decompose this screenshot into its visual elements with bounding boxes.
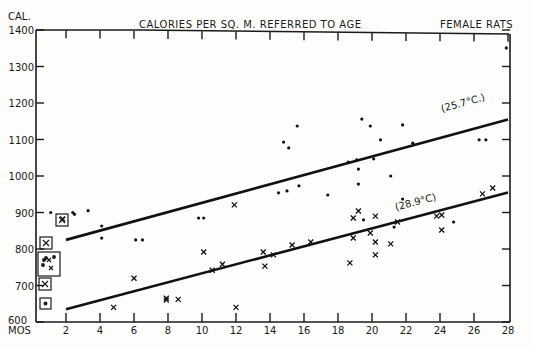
chart-title: CALORIES PER SQ. M. REFERRED TO AGE <box>139 19 362 30</box>
cross-marker <box>220 262 225 267</box>
trend-line-label: (28.9°C) <box>394 191 438 212</box>
dot-marker <box>478 138 481 141</box>
dot-marker <box>355 158 358 161</box>
cross-marker <box>368 230 373 235</box>
x-tick-label: 16 <box>298 325 311 336</box>
dot-marker <box>100 224 103 227</box>
boxed-markers <box>38 214 68 309</box>
chart-subtitle: FEMALE RATS <box>440 19 513 30</box>
axis-ticks <box>36 30 510 322</box>
cross-marker <box>132 276 137 281</box>
axis-tick-labels: 2468101214161820222426286007008009001000… <box>8 25 514 336</box>
cross-marker <box>176 297 181 302</box>
y-tick-label: 900 <box>15 208 34 219</box>
dot-marker <box>287 146 290 149</box>
dot-marker <box>389 174 392 177</box>
cross-marker <box>373 252 378 257</box>
dot-marker <box>297 184 300 187</box>
dot-marker <box>379 138 382 141</box>
cross-marker <box>234 305 239 310</box>
y-tick-label: 1400 <box>9 25 34 36</box>
x-tick-label: 28 <box>502 325 515 336</box>
dot-marker <box>411 142 414 145</box>
cross-marker <box>201 249 206 254</box>
cross-marker <box>434 214 439 219</box>
dot-marker <box>372 157 375 160</box>
dot-marker <box>282 140 285 143</box>
x-tick-label: 8 <box>165 325 171 336</box>
y-tick-label: 1200 <box>9 98 34 109</box>
dot-marker <box>484 138 487 141</box>
x-tick-label: 26 <box>468 325 481 336</box>
scatter-chart: 2468101214161820222426286007008009001000… <box>0 0 533 348</box>
x-tick-label: 24 <box>434 325 447 336</box>
cross-marker <box>232 202 237 207</box>
cross-marker <box>480 191 485 196</box>
plot-frame <box>36 30 510 322</box>
y-tick-label: 800 <box>15 244 34 255</box>
x-tick-label: 22 <box>400 325 413 336</box>
cross-marker <box>388 241 393 246</box>
x-tick-label: 2 <box>63 325 69 336</box>
dot-marker <box>73 213 76 216</box>
trend-line <box>66 192 508 309</box>
trend-line-label: (25.7°C.) <box>440 92 487 115</box>
y-axis-label: CAL. <box>8 11 31 22</box>
trend-line <box>66 119 508 239</box>
dot-marker <box>134 238 137 241</box>
dot-marker <box>357 167 360 170</box>
x-tick-label: 20 <box>366 325 379 336</box>
x-tick-label: 14 <box>264 325 277 336</box>
dot-marker <box>100 236 103 239</box>
dot-marker <box>360 117 363 120</box>
dot-marker <box>357 182 360 185</box>
cross-marker <box>351 215 356 220</box>
dot-marker <box>141 238 144 241</box>
cross-marker <box>290 242 295 247</box>
dot-marker <box>277 191 280 194</box>
dot-marker <box>401 197 404 200</box>
x-tick-label: 4 <box>97 325 103 336</box>
x-tick-label: 12 <box>230 325 243 336</box>
cross-marker <box>373 214 378 219</box>
dot-marker <box>401 123 404 126</box>
y-tick-label: 1300 <box>9 62 34 73</box>
dot-marker <box>362 218 365 221</box>
y-tick-label: 1100 <box>9 135 34 146</box>
dot-marker <box>202 216 205 219</box>
dot-marker <box>347 161 350 164</box>
boxed-marker-contents <box>42 217 65 305</box>
x-tick-label: 6 <box>131 325 137 336</box>
y-tick-label: 1000 <box>9 171 34 182</box>
dot-marker <box>87 209 90 212</box>
x-tick-label: 18 <box>332 325 345 336</box>
x-axis-label: MOS <box>8 325 31 336</box>
cross-marker <box>262 264 267 269</box>
dot-marker <box>49 211 52 214</box>
cross-marker <box>111 305 116 310</box>
dot-marker <box>326 193 329 196</box>
dot-marker <box>369 124 372 127</box>
x-tick-label: 10 <box>196 325 209 336</box>
dot-marker <box>285 189 288 192</box>
cross-marker <box>347 260 352 265</box>
cross-marker <box>490 186 495 191</box>
cross-marker <box>439 228 444 233</box>
y-tick-label: 700 <box>15 281 34 292</box>
dot-marker <box>197 216 200 219</box>
data-points <box>49 46 508 310</box>
dot-marker <box>296 124 299 127</box>
cross-marker <box>351 236 356 241</box>
dot-marker <box>452 220 455 223</box>
dot-marker <box>393 226 396 229</box>
cross-marker <box>373 240 378 245</box>
cross-marker <box>261 249 266 254</box>
cross-marker <box>439 213 444 218</box>
cross-marker <box>356 209 361 214</box>
dot-marker <box>505 46 508 49</box>
